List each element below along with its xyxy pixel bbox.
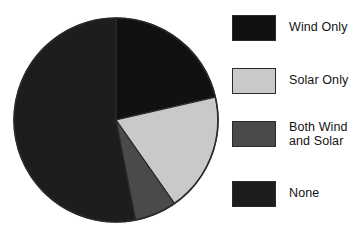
legend-swatch-solar-only bbox=[232, 68, 276, 94]
legend-label-solar-only: Solar Only bbox=[289, 68, 348, 88]
legend-swatch-both-wind-and-solar bbox=[232, 121, 276, 147]
chart-legend: Wind Only Solar Only Both Wind and Solar… bbox=[232, 0, 362, 237]
legend-item-solar-only[interactable]: Solar Only bbox=[232, 68, 348, 94]
legend-label-both-wind-and-solar: Both Wind and Solar bbox=[289, 121, 348, 148]
legend-label-none: None bbox=[289, 181, 319, 201]
legend-item-both-wind-and-solar[interactable]: Both Wind and Solar bbox=[232, 121, 348, 148]
pie-chart-plot-area bbox=[0, 0, 232, 237]
legend-swatch-none bbox=[232, 181, 276, 207]
legend-item-wind-only[interactable]: Wind Only bbox=[232, 15, 348, 41]
legend-swatch-wind-only bbox=[232, 15, 276, 41]
legend-label-wind-only: Wind Only bbox=[289, 15, 348, 35]
pie-chart-figure: Wind Only Solar Only Both Wind and Solar… bbox=[0, 0, 362, 237]
pie-slice-group bbox=[14, 18, 218, 222]
pie-chart-svg bbox=[0, 0, 232, 237]
legend-item-none[interactable]: None bbox=[232, 181, 319, 207]
